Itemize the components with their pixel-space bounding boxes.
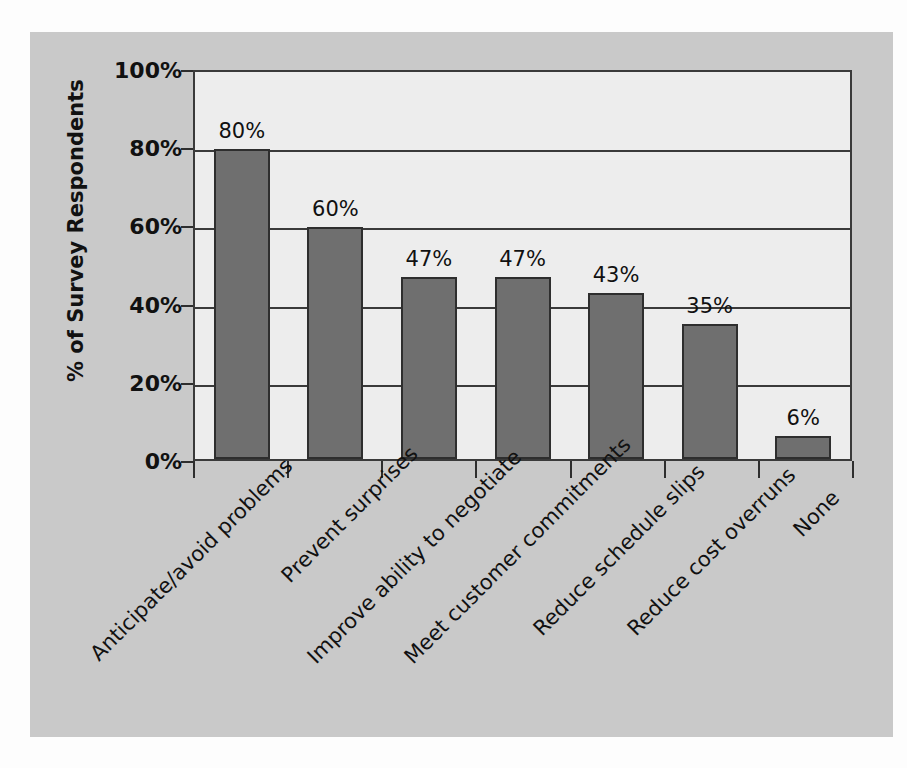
bar[interactable]	[214, 149, 270, 459]
bar[interactable]	[775, 436, 831, 459]
bar-value-label: 6%	[787, 406, 820, 430]
y-tick-label-40: 40%	[90, 292, 182, 317]
plot-area: 80% 60% 47% 47% 43%	[193, 70, 852, 461]
bar[interactable]	[401, 277, 457, 459]
bar-value-label: 60%	[312, 197, 359, 221]
y-axis-title: % of Survey Respondents	[64, 79, 88, 382]
bar-slot: 43%	[569, 72, 663, 459]
bar-slot: 47%	[476, 72, 570, 459]
x-axis-tick	[570, 461, 572, 478]
bar-slot: 6%	[756, 72, 850, 459]
bar-value-label: 43%	[593, 263, 640, 287]
x-axis-tick	[852, 461, 854, 478]
bar-value-label: 35%	[686, 294, 733, 318]
y-tick-label-0: 0%	[90, 449, 182, 474]
x-tick-label-5: Reduce cost overruns	[623, 463, 801, 641]
x-axis-tick	[664, 461, 666, 478]
bar-slot: 35%	[663, 72, 757, 459]
bar-slot: 80%	[195, 72, 289, 459]
bar-value-label: 80%	[218, 119, 265, 143]
bar-slot: 47%	[382, 72, 476, 459]
bar[interactable]	[495, 277, 551, 459]
bar[interactable]	[682, 324, 738, 459]
bar-series: 80% 60% 47% 47% 43%	[195, 72, 850, 459]
chart-screenshot: % of Survey Respondents 100% 80% 60% 40%…	[0, 0, 907, 768]
x-tick-label-0: Anticipate/avoid problems	[86, 454, 298, 666]
chart-panel: % of Survey Respondents 100% 80% 60% 40%…	[30, 32, 893, 737]
y-tick-label-80: 80%	[90, 136, 182, 161]
bar-value-label: 47%	[499, 247, 546, 271]
x-tick-label-4: Reduce schedule slips	[529, 459, 710, 640]
bar-slot: 60%	[289, 72, 383, 459]
x-axis-tick	[193, 461, 195, 478]
x-axis-tick	[758, 461, 760, 478]
x-tick-label-6: None	[789, 486, 845, 542]
bar-value-label: 47%	[406, 247, 453, 271]
bar[interactable]	[307, 227, 363, 459]
y-tick-label-20: 20%	[90, 370, 182, 395]
y-tick-label-100: 100%	[90, 58, 182, 83]
y-tick-label-60: 60%	[90, 214, 182, 239]
